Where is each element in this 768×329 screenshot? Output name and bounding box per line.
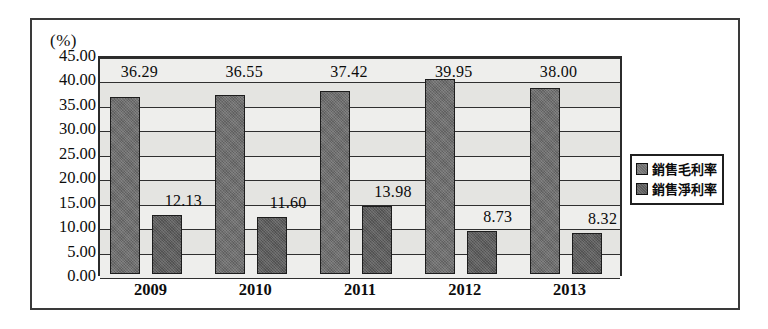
y-axis-tick-label: 20.00 <box>40 170 96 187</box>
gridline <box>100 58 620 59</box>
bar-series-gross-2013 <box>530 88 560 274</box>
plot-area: 36.2912.1336.5511.6037.4213.9839.958.733… <box>98 56 622 276</box>
data-label-series-net-2009: 12.13 <box>165 193 203 209</box>
legend-label: 銷售毛利率 <box>652 163 717 176</box>
bar-series-gross-2012 <box>425 79 455 274</box>
legend-item-series-net[interactable]: 銷售淨利率 <box>636 179 717 199</box>
y-axis-tick-label: 0.00 <box>40 268 96 285</box>
y-axis-tick-label: 30.00 <box>40 121 96 138</box>
legend-item-series-gross[interactable]: 銷售毛利率 <box>636 159 717 179</box>
data-label-series-net-2013: 8.32 <box>588 211 617 227</box>
legend-swatch-icon <box>636 183 648 195</box>
gridline <box>100 278 620 279</box>
x-axis-tick-label-2013: 2013 <box>553 282 586 299</box>
bar-series-gross-2009 <box>110 97 140 274</box>
y-axis-tick-label: 40.00 <box>40 72 96 89</box>
x-axis-tick-label-2011: 2011 <box>344 282 376 299</box>
bar-series-net-2012 <box>467 231 497 274</box>
x-axis-tick-label-2009: 2009 <box>134 282 167 299</box>
y-axis-tick-label: 10.00 <box>40 219 96 236</box>
legend-label: 銷售淨利率 <box>652 183 717 196</box>
bar-series-gross-2010 <box>215 95 245 274</box>
bar-series-net-2010 <box>257 217 287 274</box>
y-axis-tick-label: 5.00 <box>40 243 96 260</box>
x-axis-tick-label-2010: 2010 <box>239 282 272 299</box>
y-axis-tick-label: 35.00 <box>40 97 96 114</box>
gridline <box>100 82 620 83</box>
data-label-series-gross-2012: 39.95 <box>435 64 473 80</box>
bar-series-gross-2011 <box>320 91 350 274</box>
data-label-series-gross-2011: 37.42 <box>330 64 368 80</box>
data-label-series-gross-2010: 36.55 <box>225 64 263 80</box>
chart-figure-frame: (%) 45.0040.0035.0030.0025.0020.0015.001… <box>30 18 740 310</box>
y-axis: 45.0040.0035.0030.0025.0020.0015.0010.00… <box>40 56 96 276</box>
data-label-series-gross-2009: 36.29 <box>121 64 159 80</box>
data-label-series-net-2010: 11.60 <box>270 195 307 211</box>
x-axis-tick-label-2012: 2012 <box>448 282 481 299</box>
x-axis: 20092010201120122013 <box>98 282 622 306</box>
y-axis-tick-label: 15.00 <box>40 194 96 211</box>
bar-series-net-2011 <box>362 206 392 274</box>
data-label-series-net-2011: 13.98 <box>374 184 412 200</box>
chart-legend: 銷售毛利率銷售淨利率 <box>630 154 724 205</box>
data-label-series-net-2012: 8.73 <box>483 209 512 225</box>
data-label-series-gross-2013: 38.00 <box>540 64 578 80</box>
y-axis-tick-label: 45.00 <box>40 48 96 65</box>
legend-swatch-icon <box>636 163 648 175</box>
bar-series-net-2009 <box>152 215 182 274</box>
y-axis-tick-label: 25.00 <box>40 146 96 163</box>
bar-series-net-2013 <box>572 233 602 274</box>
